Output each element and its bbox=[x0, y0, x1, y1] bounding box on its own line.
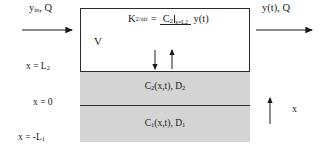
layer-1-args: (x,t), D bbox=[154, 118, 182, 128]
formula-denominator: y(t) bbox=[193, 12, 208, 24]
inlet-label: yin, Q bbox=[29, 3, 52, 14]
axis-label-x-equals-minus-L1-text: x = -L bbox=[18, 132, 42, 142]
axis-label-x-equals-minus-L1: x = -L1 bbox=[18, 133, 45, 143]
layer-2-diffusivity-subscript: 2 bbox=[182, 84, 185, 91]
layer-1-label: C1(x,t), D1 bbox=[80, 119, 250, 129]
formula-numerator: C2x=L2 bbox=[160, 13, 191, 25]
layer-1-diffusivity-subscript: 1 bbox=[182, 121, 185, 128]
formula-lhs: K bbox=[128, 13, 136, 24]
axis-label-x-equals-minus-L1-subscript: 1 bbox=[42, 135, 45, 142]
numerator-variable: C bbox=[163, 13, 170, 24]
axis-label-x-equals-0-text: x = 0 bbox=[33, 97, 53, 107]
x-axis-label: x bbox=[292, 104, 297, 114]
numerator-subscript: 2 bbox=[170, 17, 173, 24]
numerator-evaluation: x=L bbox=[175, 19, 185, 25]
headspace-volume-label: V bbox=[94, 36, 102, 47]
axis-label-x-equals-L2-subscript: 2 bbox=[47, 64, 50, 71]
diffusion-chamber-diagram: yin, Q y(t), Q V K2/air = C2x=L2 y(t) x … bbox=[0, 0, 329, 154]
axis-label-x-equals-L2: x = L2 bbox=[26, 62, 50, 72]
formula-lhs-subscript: 2/air bbox=[136, 15, 148, 22]
partition-coefficient-formula: K2/air = C2x=L2 y(t) bbox=[128, 13, 209, 25]
inlet-flow-rate: , Q bbox=[39, 2, 52, 13]
axis-label-x-equals-L2-text: x = L bbox=[26, 61, 47, 71]
outlet-label: y(t), Q bbox=[262, 3, 290, 14]
formula-equals: = bbox=[151, 13, 157, 24]
formula-fraction: C2x=L2 y(t) bbox=[160, 13, 209, 25]
layer-2-label: C2(x,t), D2 bbox=[80, 82, 250, 92]
layer-2-args: (x,t), D bbox=[154, 81, 182, 91]
axis-label-x-equals-0: x = 0 bbox=[33, 98, 53, 108]
numerator-evaluation-subscript: 2 bbox=[185, 19, 188, 25]
